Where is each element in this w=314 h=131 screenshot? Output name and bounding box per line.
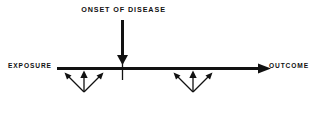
outcome-label: OUTCOME	[269, 62, 309, 70]
risk-factors-arrow-fan	[65, 71, 104, 93]
risk-arrow-right-shaft	[84, 76, 100, 92]
exposure-outcome-timeline-figure: ONSET OF DISEASE EXPOSURE OUTCOME RISK F…	[0, 0, 314, 131]
prognostic-arrow-right-shaft	[193, 76, 209, 92]
prognostic-factors-annotation: PROGNOSTIC FACTORS (Affect outcome)	[141, 96, 279, 131]
exposure-label: EXPOSURE	[8, 62, 52, 70]
risk-arrow-center-head	[80, 71, 87, 79]
risk-factors-annotation: RISK FACTORS (Affect onset)	[27, 96, 151, 131]
prognostic-arrow-left-shaft	[177, 76, 193, 92]
prognostic-arrow-center-head	[189, 71, 196, 79]
onset-of-disease-label: ONSET OF DISEASE	[0, 6, 247, 14]
risk-arrow-left-shaft	[68, 76, 84, 92]
prognostic-factors-arrow-fan	[174, 71, 213, 93]
